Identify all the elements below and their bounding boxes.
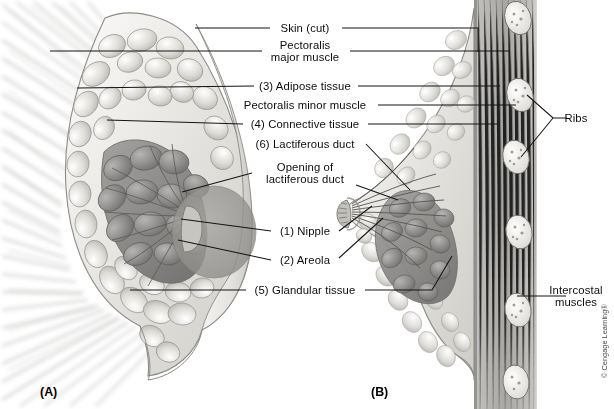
label-pectoralis_minor: Pectoralis minor muscle [235, 99, 375, 112]
label-intercostal: Intercostal muscles [547, 284, 605, 309]
label-pectoralis_major: Pectoralis major muscle [263, 39, 347, 64]
panel-caption-b: (B) [371, 385, 388, 399]
label-areola: (2) Areola [274, 254, 336, 267]
label-connective: (4) Connective tissue [243, 118, 367, 131]
label-ribs: Ribs [562, 112, 590, 125]
label-nipple: (1) Nipple [274, 225, 336, 238]
label-adipose: (3) Adipose tissue [254, 80, 356, 93]
label-skin: Skin (cut) [273, 22, 337, 35]
label-glandular: (5) Glandular tissue [247, 284, 363, 297]
copyright-notice: © Cengage Learning® [600, 304, 609, 378]
figure-canvas: Skin (cut)Pectoralis major muscle(3) Adi… [0, 0, 614, 409]
label-duct_opening: Opening of lactiferous duct [256, 161, 354, 186]
panel-caption-a: (A) [40, 385, 57, 399]
label-lactiferous_duct: (6) Lactiferous duct [246, 138, 364, 151]
